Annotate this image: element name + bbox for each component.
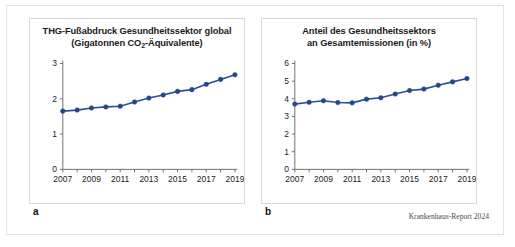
svg-text:2015: 2015 [168,174,187,184]
svg-text:0: 0 [284,164,289,174]
svg-text:2013: 2013 [139,174,158,184]
svg-text:2017: 2017 [429,174,448,184]
chart-b-plot: 01234562007200920112013201520172019 [262,19,476,203]
svg-text:2: 2 [284,129,289,139]
svg-text:2013: 2013 [371,174,390,184]
chart-panel-a: THG-Fußabdruck Gesundheitssektor global … [29,18,245,204]
svg-text:3: 3 [52,58,57,68]
svg-text:1: 1 [284,147,289,157]
svg-text:2009: 2009 [314,174,333,184]
chart-panels: THG-Fußabdruck Gesundheitssektor global … [7,6,503,234]
chart-panel-b: Anteil des Gesundheitssektors an Gesamte… [261,18,477,204]
figure-frame: THG-Fußabdruck Gesundheitssektor global … [6,5,504,235]
svg-text:2009: 2009 [82,174,101,184]
svg-text:4: 4 [284,94,289,104]
svg-text:2019: 2019 [457,174,476,184]
svg-text:5: 5 [284,76,289,86]
svg-text:2: 2 [52,94,57,104]
svg-text:1: 1 [52,129,57,139]
svg-text:2007: 2007 [285,174,304,184]
panel-label-a: a [33,206,39,217]
svg-text:2011: 2011 [343,174,362,184]
chart-a-plot: 01232007200920112013201520172019 [30,19,244,203]
svg-text:3: 3 [284,111,289,121]
svg-text:2017: 2017 [197,174,216,184]
svg-text:0: 0 [52,164,57,174]
source-note: Krankenhaus-Report 2024 [409,212,489,221]
panel-label-b: b [265,206,271,217]
svg-text:2015: 2015 [400,174,419,184]
svg-text:2007: 2007 [53,174,72,184]
svg-text:6: 6 [284,58,289,68]
svg-text:2011: 2011 [111,174,130,184]
svg-text:2019: 2019 [225,174,244,184]
